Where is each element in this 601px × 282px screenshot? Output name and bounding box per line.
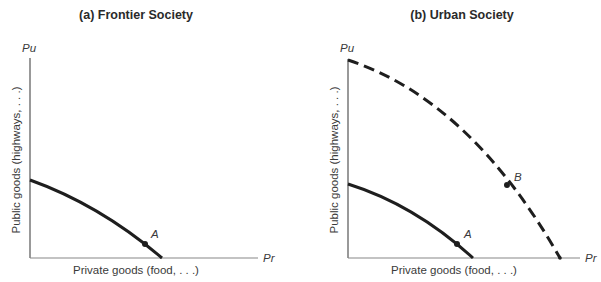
panel-b-point-a: [454, 241, 460, 247]
panel-a-x-end-label: Pr: [263, 252, 276, 264]
panel-a-point-a-label: A: [150, 228, 159, 240]
panel-b-point-b-label: B: [514, 171, 522, 183]
panel-b-y-axis-label: Public goods (highways, . . .): [328, 86, 340, 233]
chart-canvas: Pu Pr Public goods (highways, . . .) Pri…: [0, 0, 601, 282]
panel-b-point-a-label: A: [463, 228, 472, 240]
panel-a-y-end-label: Pu: [22, 42, 37, 54]
panel-a-x-axis-label: Private goods (food, . . .): [73, 264, 199, 276]
panel-b-frontier-curve: [348, 184, 473, 258]
panel-b-urban-intercept-dot: [558, 256, 562, 260]
panel-a-chart: Pu Pr Public goods (highways, . . .) Pri…: [10, 42, 276, 276]
panel-b-urban-frontier-curve: [348, 60, 560, 258]
panel-b-x-end-label: Pr: [585, 252, 598, 264]
panel-a-frontier-curve: [30, 180, 162, 258]
panel-b-y-end-label: Pu: [340, 42, 355, 54]
panel-b-x-axis-label: Private goods (food, . . .): [391, 264, 517, 276]
panel-b-chart: Pu Pr Public goods (highways, . . .) Pri…: [328, 42, 598, 276]
panel-a-y-axis-label: Public goods (highways, . . .): [10, 86, 22, 233]
panel-a-point-a: [142, 241, 148, 247]
panel-b-point-b: [504, 182, 510, 188]
